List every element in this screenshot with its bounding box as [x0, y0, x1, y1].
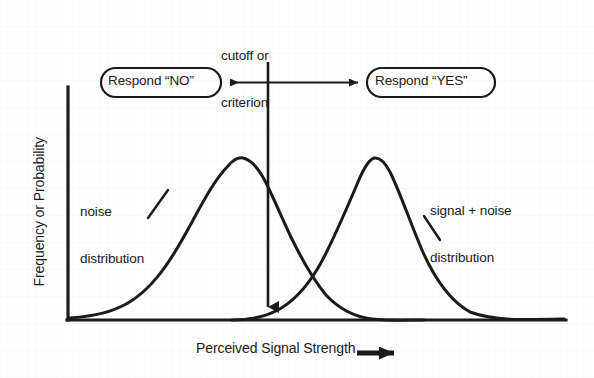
criterion-label-line2: criterion	[221, 95, 269, 111]
signal-label-line2: distribution	[430, 250, 512, 266]
signal-label-line1: signal + noise	[430, 203, 512, 219]
noise-label-line1: noise	[80, 204, 144, 220]
noise-label-line2: distribution	[80, 251, 144, 267]
figure-container: cutoff or criterion Respond “NO” Respond…	[0, 0, 594, 378]
criterion-label: cutoff or criterion	[221, 17, 269, 141]
respond-yes-label[interactable]: Respond “YES”	[375, 73, 468, 89]
noise-label-leader	[148, 190, 168, 218]
signal-noise-distribution-curve	[232, 158, 564, 320]
criterion-label-line1: cutoff or	[221, 48, 269, 64]
y-axis-label: Frequency or Probability	[32, 112, 48, 312]
noise-distribution-label: noise distribution	[80, 173, 144, 297]
signal-noise-distribution-label: signal + noise distribution	[430, 172, 512, 296]
x-axis-label: Perceived Signal Strength	[196, 341, 355, 357]
respond-no-label[interactable]: Respond “NO”	[108, 73, 194, 89]
